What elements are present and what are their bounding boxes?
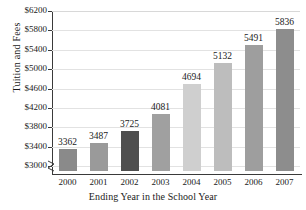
bar-2004[interactable] (183, 84, 201, 171)
x-tick-label-2007: 2007 (265, 177, 305, 187)
y-tick-label: $6200 (0, 6, 47, 15)
bar-value-label: 4081 (141, 102, 181, 112)
bar-2000[interactable] (59, 149, 77, 171)
gridline (52, 69, 300, 70)
y-tick-label: $3000 (0, 161, 47, 170)
bar-2003[interactable] (152, 114, 170, 171)
bar-value-label: 3487 (79, 131, 119, 141)
gridline (52, 127, 300, 128)
gridline (52, 11, 300, 12)
bar-2005[interactable] (214, 63, 232, 171)
gridline (52, 89, 300, 90)
y-tick-label: $5000 (0, 64, 47, 73)
bar-2002[interactable] (121, 131, 139, 171)
y-tick-label: $4600 (0, 84, 47, 93)
gridline (52, 50, 300, 51)
y-tick-label: $5800 (0, 25, 47, 34)
bar-2006[interactable] (245, 45, 263, 171)
gridline (52, 30, 300, 31)
bar-2007[interactable] (276, 29, 294, 171)
y-tick-label: $4200 (0, 103, 47, 112)
x-axis-title: Ending Year in the School Year (0, 191, 306, 202)
y-tick-label: $3400 (0, 142, 47, 151)
y-tick-label: $5400 (0, 45, 47, 54)
bar-value-label: 5132 (203, 51, 243, 61)
bar-value-label: 5491 (234, 33, 274, 43)
bar-value-label: 4694 (172, 72, 212, 82)
x-axis-line (52, 174, 302, 175)
y-tick-label: $3800 (0, 122, 47, 131)
bar-value-label: 3725 (110, 119, 150, 129)
tuition-bar-chart: Tuition and Fees $3000$3400$3800$4200$46… (0, 0, 306, 210)
y-axis-title: Tuition and Fees (11, 0, 22, 118)
bar-2001[interactable] (90, 143, 108, 171)
plot-area: 33623487372540814694513254915836 (52, 11, 300, 171)
bar-value-label: 5836 (265, 17, 305, 27)
